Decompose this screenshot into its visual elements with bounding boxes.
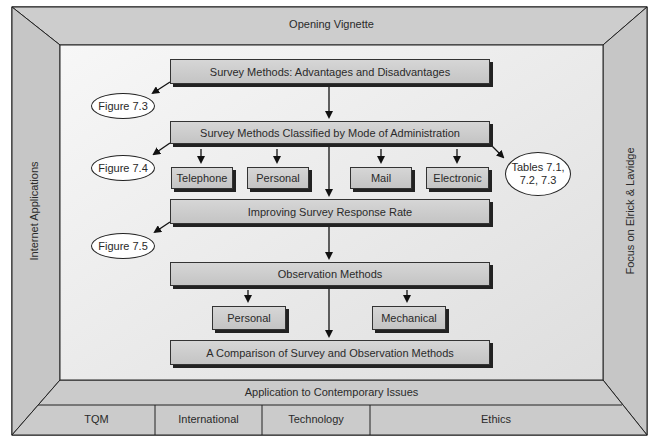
tab-technology: Technology <box>262 413 370 425</box>
box-mail: Mail <box>350 167 412 189</box>
box-electronic: Electronic <box>426 167 489 189</box>
tab-international: International <box>155 413 262 425</box>
tab-ethics: Ethics <box>370 413 622 425</box>
box-telephone: Telephone <box>171 167 233 189</box>
internet-applications-label: Internet Applications <box>28 141 40 281</box>
tables-line-1: Tables 7.1, <box>511 161 564 174</box>
box-observation-methods: Observation Methods <box>170 262 490 286</box>
opening-vignette-label: Opening Vignette <box>60 18 603 30</box>
tab-tqm: TQM <box>38 413 155 425</box>
tables-7-1-7-3-oval: Tables 7.1, 7.2, 7.3 <box>505 152 571 196</box>
box-survey-classified: Survey Methods Classified by Mode of Adm… <box>170 121 490 144</box>
box-comparison: A Comparison of Survey and Observation M… <box>170 340 490 365</box>
box-survey-advantages: Survey Methods: Advantages and Disadvant… <box>170 59 490 84</box>
figure-7-3-oval: Figure 7.3 <box>91 93 155 119</box>
box-personal-observation: Personal <box>212 306 286 330</box>
box-mechanical: Mechanical <box>372 306 446 330</box>
figure-7-4-oval: Figure 7.4 <box>91 155 155 181</box>
box-improving-response: Improving Survey Response Rate <box>170 199 490 224</box>
focus-on-elrick-lavidge-label: Focus on Elrick & Lavidge <box>624 131 636 291</box>
tables-line-2: 7.2, 7.3 <box>520 174 557 187</box>
figure-7-5-oval: Figure 7.5 <box>91 233 155 259</box>
application-contemporary-issues-label: Application to Contemporary Issues <box>60 386 603 398</box>
box-personal-survey: Personal <box>247 167 309 189</box>
